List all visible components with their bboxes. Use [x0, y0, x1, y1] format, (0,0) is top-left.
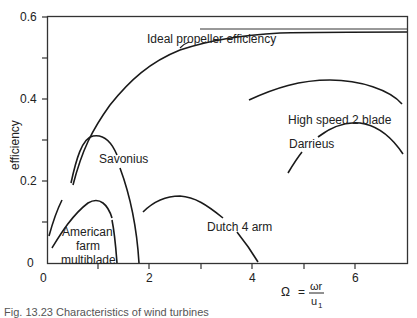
svg-text:ωr: ωr	[310, 280, 323, 292]
label-american-line3: multiblade	[61, 253, 116, 267]
x-axis-label: Ω = ωr u 1	[281, 280, 324, 310]
label-dutch-4-arm: Dutch 4 arm	[207, 220, 272, 234]
label-american-line2: farm	[76, 239, 100, 253]
y-tick-0: 0	[27, 256, 34, 270]
curve-savonius-lower	[120, 168, 139, 263]
svg-text:1: 1	[318, 301, 323, 310]
x-tick-4: 4	[249, 271, 256, 285]
y-axis: 0.6 0.4 0.2 0 efficiency	[8, 10, 48, 270]
curve-left-edge	[49, 200, 62, 236]
x-tick-6: 6	[352, 271, 359, 285]
label-darrieus: Darrieus	[289, 137, 334, 151]
svg-text:u: u	[311, 295, 317, 307]
curve-darrieus	[288, 152, 302, 173]
y-axis-label: efficiency	[8, 120, 22, 170]
label-american-line1: American	[62, 225, 113, 239]
y-tick-0.6: 0.6	[20, 10, 37, 24]
curve-dutch-4-arm	[143, 196, 223, 218]
x-axis: 0 2 4 6 Ω = ωr u 1	[40, 263, 359, 310]
label-ideal-propeller: Ideal propeller efficiency	[147, 32, 276, 46]
y-tick-0.2: 0.2	[20, 174, 37, 188]
svg-text:=: =	[298, 285, 305, 299]
label-high-speed-2-blade: High speed 2 blade	[288, 113, 392, 127]
svg-text:Ω: Ω	[281, 285, 290, 299]
curve-high-speed-2-blade	[249, 80, 402, 104]
figure-caption: Fig. 13.23 Characteristics of wind turbi…	[4, 306, 209, 318]
x-tick-0: 0	[40, 271, 47, 285]
label-savonius: Savonius	[99, 152, 148, 166]
x-tick-2: 2	[146, 271, 153, 285]
curve-dutch-4-arm-lower	[237, 232, 258, 262]
y-tick-0.4: 0.4	[20, 92, 37, 106]
